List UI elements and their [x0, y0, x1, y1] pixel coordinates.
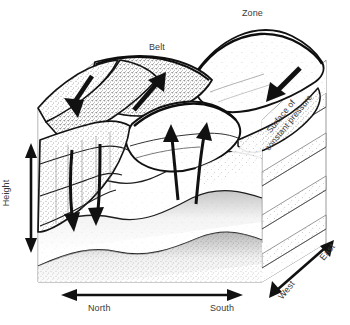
north-south-axis-arrow	[61, 289, 243, 301]
label-height: Height	[1, 180, 11, 207]
belt-zone-diagram: Zone Belt North South Height East West S…	[0, 0, 350, 325]
height-axis-arrow	[25, 143, 37, 253]
label-north: North	[88, 303, 111, 313]
label-south: South	[210, 303, 234, 313]
label-zone: Zone	[242, 8, 263, 18]
diagram-canvas	[0, 0, 350, 325]
label-belt: Belt	[149, 42, 165, 52]
